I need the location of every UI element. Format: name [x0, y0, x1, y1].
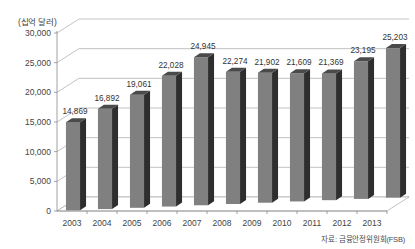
bar-2004	[98, 105, 118, 209]
bar-value-label-2007: 24,945	[190, 42, 215, 51]
x-tick-label-2009: 2009	[243, 218, 262, 228]
x-tick-label-2004: 2004	[93, 218, 112, 228]
bar-front-face	[322, 73, 336, 200]
bar-side-face	[112, 105, 118, 209]
x-tick-label-2010: 2010	[273, 218, 292, 228]
bar-2007	[194, 53, 214, 205]
bar-2012	[354, 57, 374, 199]
chart-container: (십억 달러) 05,00010,00015,00020,00025,00030…	[0, 0, 415, 249]
bar-side-face	[400, 44, 406, 198]
bar-side-face	[304, 69, 310, 201]
bar-front-face	[386, 48, 400, 198]
bar-side-face	[208, 53, 214, 205]
x-tick-label-2008: 2008	[213, 218, 232, 228]
y-tick-label-0: 0	[46, 206, 51, 216]
x-tick-label-2011: 2011	[303, 218, 322, 228]
bar-side-face	[272, 69, 278, 203]
y-tick-label-30,000: 30,000	[25, 28, 51, 38]
bar-value-label-2006: 22,028	[158, 61, 183, 70]
bar-side-face	[80, 118, 86, 210]
x-tick-label-2012: 2012	[333, 218, 352, 228]
bar-front-face	[130, 95, 144, 208]
bar-chart-plot: 05,00010,00015,00020,00025,00030,00014,8…	[0, 0, 415, 249]
bar-front-face	[354, 61, 368, 199]
bar-side-face	[176, 72, 182, 207]
bar-2011	[322, 69, 342, 200]
bar-side-face	[240, 68, 246, 204]
bar-value-label-2012: 23,195	[350, 46, 375, 55]
y-tick-label-15,000: 15,000	[25, 117, 51, 127]
bar-value-label-2003: 14,869	[62, 107, 87, 116]
bar-value-label-2013: 25,203	[382, 33, 407, 42]
x-tick-label-2005: 2005	[123, 218, 142, 228]
y-tick-label-20,000: 20,000	[25, 87, 51, 97]
gridline-depth-20,000	[57, 78, 79, 92]
bar-front-face	[194, 57, 208, 205]
y-tick-label-5,000: 5,000	[30, 176, 52, 186]
bar-2009	[258, 69, 278, 203]
bar-value-label-2008: 22,274	[222, 57, 247, 66]
bar-value-label-2010: 21,609	[286, 58, 311, 67]
source-note: 자료: 금융안정위원회(FSB)	[321, 233, 405, 244]
x-tick-label-2003: 2003	[63, 218, 82, 228]
bar-value-label-2004: 16,892	[94, 94, 119, 103]
bar-value-label-2009: 21,902	[254, 58, 279, 67]
bar-2003	[66, 118, 86, 210]
y-tick-label-10,000: 10,000	[25, 147, 51, 157]
bar-front-face	[66, 122, 80, 210]
bar-front-face	[290, 73, 304, 201]
bar-2008	[226, 68, 246, 204]
bar-front-face	[258, 73, 272, 203]
bar-2013	[386, 44, 406, 198]
gridline-depth-25,000	[57, 49, 79, 63]
bar-value-label-2005: 19,061	[126, 80, 151, 89]
bar-2006	[162, 72, 182, 207]
gridline-depth-30,000	[57, 19, 79, 33]
bar-side-face	[336, 69, 342, 200]
x-tick-label-2006: 2006	[153, 218, 172, 228]
bar-side-face	[144, 91, 150, 208]
bar-front-face	[226, 72, 240, 204]
x-tick-label-2007: 2007	[183, 218, 202, 228]
bar-front-face	[162, 76, 176, 207]
bar-2005	[130, 91, 150, 208]
bar-2010	[290, 69, 310, 201]
bar-side-face	[368, 57, 374, 199]
bar-value-label-2011: 21,369	[318, 58, 343, 67]
y-tick-label-25,000: 25,000	[25, 58, 51, 68]
x-tick-label-2013: 2013	[363, 218, 382, 228]
bar-front-face	[98, 109, 112, 209]
